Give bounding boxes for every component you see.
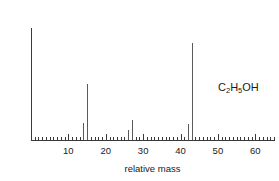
- x-axis-minor-tick: [222, 137, 223, 141]
- x-axis-minor-tick: [162, 137, 163, 141]
- x-axis-minor-tick: [151, 137, 152, 141]
- x-axis-minor-tick: [57, 137, 58, 141]
- x-axis-minor-tick: [76, 137, 77, 141]
- x-axis-minor-tick: [110, 137, 111, 141]
- x-axis-minor-tick: [229, 137, 230, 141]
- x-axis-minor-tick: [240, 137, 241, 141]
- x-axis-minor-tick: [225, 137, 226, 141]
- x-axis-major-tick: [68, 134, 69, 141]
- spectrum-peak: [128, 130, 129, 140]
- x-axis-minor-tick: [31, 137, 32, 141]
- x-axis-minor-tick: [46, 137, 47, 141]
- x-axis-minor-tick: [184, 137, 185, 141]
- x-axis-minor-tick: [124, 137, 125, 141]
- x-axis-minor-tick: [136, 137, 137, 141]
- x-axis-minor-tick: [248, 137, 249, 141]
- x-axis-minor-tick: [35, 137, 36, 141]
- x-axis-minor-tick: [267, 137, 268, 141]
- spectrum-peak: [132, 120, 133, 140]
- x-axis-minor-tick: [173, 137, 174, 141]
- formula-part-1: C: [218, 81, 226, 93]
- x-axis-minor-tick: [154, 137, 155, 141]
- x-axis-minor-tick: [169, 137, 170, 141]
- x-axis-minor-tick: [244, 137, 245, 141]
- x-axis-minor-tick: [195, 137, 196, 141]
- x-axis-minor-tick: [252, 137, 253, 141]
- x-axis-minor-tick: [237, 137, 238, 141]
- x-axis-minor-tick: [98, 137, 99, 141]
- x-axis-minor-tick: [38, 137, 39, 141]
- x-axis-tick-label: 50: [206, 145, 230, 156]
- x-axis-minor-tick: [233, 137, 234, 141]
- x-axis-minor-tick: [147, 137, 148, 141]
- x-axis-minor-tick: [91, 137, 92, 141]
- x-axis-minor-tick: [210, 137, 211, 141]
- spectrum-peak: [83, 123, 84, 140]
- x-axis-minor-tick: [263, 137, 264, 141]
- x-axis-minor-tick: [61, 137, 62, 141]
- x-axis-minor-tick: [274, 137, 275, 141]
- x-axis-minor-tick: [270, 137, 271, 141]
- formula-part-2: H: [230, 81, 238, 93]
- x-axis-tick-label: 60: [243, 145, 267, 156]
- x-axis-minor-tick: [53, 137, 54, 141]
- spectrum-peak: [192, 43, 193, 140]
- x-axis-minor-tick: [214, 137, 215, 141]
- x-axis-minor-tick: [50, 137, 51, 141]
- x-axis-tick-label: 20: [94, 145, 118, 156]
- x-axis-minor-tick: [117, 137, 118, 141]
- x-axis-minor-tick: [102, 137, 103, 141]
- x-axis-minor-tick: [207, 137, 208, 141]
- x-axis-minor-tick: [95, 137, 96, 141]
- x-axis-minor-tick: [72, 137, 73, 141]
- x-axis-minor-tick: [42, 137, 43, 141]
- x-axis-minor-tick: [139, 137, 140, 141]
- x-axis-major-tick: [181, 134, 182, 141]
- x-axis-major-tick: [255, 134, 256, 141]
- x-axis-tick-label: 40: [169, 145, 193, 156]
- x-axis-tick-label: 30: [131, 145, 155, 156]
- x-axis-label: relative mass: [31, 163, 274, 174]
- spectrum-peak: [87, 84, 88, 140]
- x-axis-minor-tick: [166, 137, 167, 141]
- x-axis-major-tick: [143, 134, 144, 141]
- x-axis-minor-tick: [121, 137, 122, 141]
- x-axis-minor-tick: [199, 137, 200, 141]
- mass-spectrum-figure: relative abundance 102030405060 relative…: [0, 0, 279, 181]
- x-axis-minor-tick: [203, 137, 204, 141]
- x-axis-minor-tick: [259, 137, 260, 141]
- molecular-formula-annotation: C2H5OH: [218, 81, 259, 95]
- x-axis-tick-label: 10: [56, 145, 80, 156]
- x-axis-major-tick: [106, 134, 107, 141]
- y-axis-line: [31, 28, 32, 141]
- x-axis-minor-tick: [177, 137, 178, 141]
- x-axis-major-tick: [218, 134, 219, 141]
- x-axis-minor-tick: [113, 137, 114, 141]
- formula-part-3: OH: [242, 81, 259, 93]
- x-axis-minor-tick: [65, 137, 66, 141]
- x-axis-minor-tick: [158, 137, 159, 141]
- spectrum-peak: [188, 124, 189, 140]
- x-axis-minor-tick: [80, 137, 81, 141]
